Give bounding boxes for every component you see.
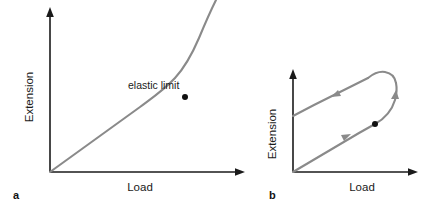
panel-a-x-axis-arrowhead	[235, 168, 245, 176]
panel-b-x-axis-label: Load	[349, 181, 375, 193]
panel-b-y-axis-label: Extension	[266, 109, 278, 160]
panel-b-turnaround-curl	[368, 72, 396, 83]
panel-b-y-axis-arrowhead	[289, 69, 297, 79]
panel-a-letter: a	[13, 189, 20, 201]
panel-a-y-axis-label: Extension	[23, 72, 35, 123]
panel-a-elastic-limit-marker	[182, 94, 188, 100]
panel-b-x-axis-arrowhead	[408, 168, 418, 176]
panel-b-unloading-flow-arrow	[331, 90, 341, 97]
panel-b-loading-branch	[293, 83, 397, 172]
figure-container: elastic limit Extension Load a	[0, 0, 433, 217]
panel-b-letter: b	[269, 189, 276, 201]
panel-a-elastic-limit-label: elastic limit	[128, 79, 179, 91]
panel-b-marker-dot	[372, 121, 378, 127]
figure-svg: elastic limit Extension Load a	[0, 0, 433, 217]
panel-b-unloading-branch	[293, 78, 368, 116]
panel-b-turnaround-flow-arrow	[391, 90, 399, 99]
panel-a-x-axis-label: Load	[127, 181, 153, 193]
panel-b: Extension Load b	[266, 69, 418, 201]
panel-a-y-axis-arrowhead	[46, 7, 54, 17]
panel-a: elastic limit Extension Load a	[13, 0, 245, 201]
